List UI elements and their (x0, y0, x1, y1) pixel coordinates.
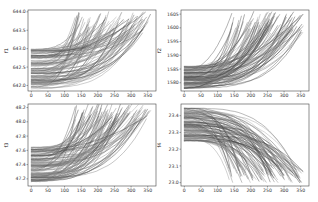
x-tick-label: 50 (45, 188, 51, 193)
x-tick-label: 50 (198, 93, 204, 98)
x-tick-label: 0 (183, 188, 186, 193)
y-tick-label: 1600 (167, 25, 179, 30)
x-tick-label: 100 (213, 93, 222, 98)
x-tick-label: 250 (263, 188, 272, 193)
y-tick-label: 23.3 (169, 130, 179, 135)
y-axis-label: f2 (156, 48, 162, 53)
x-tick-label: 350 (296, 93, 305, 98)
panel-f1: 050100150200250300350642.0642.5643.0643.… (3, 9, 156, 98)
x-tick-label: 250 (110, 93, 119, 98)
x-tick-label: 200 (93, 188, 102, 193)
y-tick-label: 47.4 (16, 162, 26, 167)
x-tick-label: 100 (213, 188, 222, 193)
x-tick-label: 300 (280, 188, 289, 193)
panel-f4: 05010015020025030035023.023.123.223.323.… (156, 104, 309, 193)
y-tick-label: 1605 (167, 12, 179, 17)
x-tick-label: 300 (280, 93, 289, 98)
x-tick-label: 200 (246, 93, 255, 98)
y-axis-label: f3 (3, 143, 9, 148)
x-tick-label: 0 (183, 93, 186, 98)
x-tick-label: 0 (30, 188, 33, 193)
y-tick-label: 47.8 (16, 134, 26, 139)
y-tick-label: 1585 (167, 67, 179, 72)
x-tick-label: 250 (110, 188, 119, 193)
y-axis-label: f4 (156, 143, 162, 148)
series-group (184, 108, 303, 182)
y-tick-label: 23.1 (169, 164, 179, 169)
x-tick-label: 300 (127, 93, 136, 98)
x-tick-label: 150 (230, 93, 239, 98)
x-tick-label: 350 (143, 188, 152, 193)
x-tick-label: 150 (77, 188, 86, 193)
x-tick-label: 150 (230, 188, 239, 193)
x-tick-label: 100 (60, 93, 69, 98)
x-tick-label: 200 (93, 93, 102, 98)
y-tick-label: 1595 (167, 39, 179, 44)
series-group (31, 12, 150, 89)
y-tick-label: 48.2 (16, 105, 26, 110)
y-tick-label: 47.2 (16, 176, 26, 181)
x-tick-label: 50 (45, 93, 51, 98)
series-line (31, 108, 101, 179)
y-tick-label: 644.0 (13, 9, 26, 14)
panel-f3: 05010015020025030035047.247.447.647.848.… (3, 104, 156, 194)
x-tick-label: 50 (198, 188, 204, 193)
y-axis-label: f1 (3, 48, 9, 53)
y-tick-label: 48.0 (16, 119, 26, 124)
x-tick-label: 250 (263, 93, 272, 98)
x-tick-label: 100 (60, 188, 69, 193)
y-tick-label: 23.2 (169, 147, 179, 152)
y-tick-label: 1580 (167, 80, 179, 85)
y-tick-label: 643.0 (13, 46, 26, 51)
series-line (184, 137, 263, 174)
y-tick-label: 642.5 (13, 65, 26, 70)
y-tick-label: 642.0 (13, 83, 26, 88)
x-tick-label: 300 (127, 188, 136, 193)
x-tick-label: 200 (246, 188, 255, 193)
y-tick-label: 23.0 (169, 180, 179, 185)
series-line (184, 12, 293, 73)
x-tick-label: 350 (296, 188, 305, 193)
figure: 050100150200250300350642.0642.5643.0643.… (0, 0, 318, 202)
x-tick-label: 0 (30, 93, 33, 98)
y-tick-label: 643.5 (13, 28, 26, 33)
y-tick-label: 1590 (167, 53, 179, 58)
x-tick-label: 350 (143, 93, 152, 98)
y-tick-label: 23.4 (169, 113, 179, 118)
series-group (31, 104, 150, 182)
y-tick-label: 47.6 (16, 148, 26, 153)
panel-f2: 0501001502002503003501580158515901595160… (156, 10, 309, 98)
x-tick-label: 150 (77, 93, 86, 98)
series-group (184, 12, 303, 89)
